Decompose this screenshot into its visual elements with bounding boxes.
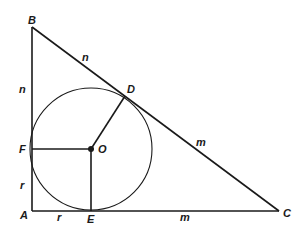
segment-label-BD: n [82, 51, 89, 63]
diagram-canvas: B D F O A E C n n r r m m [0, 0, 305, 234]
segment-label-DC: m [196, 136, 206, 148]
radius-OD [91, 96, 125, 149]
segment-label-EC: m [180, 211, 190, 223]
label-E: E [87, 213, 95, 225]
side-BC [32, 27, 279, 211]
label-O: O [98, 143, 107, 155]
center-point-O [88, 146, 94, 152]
label-A: A [19, 209, 28, 221]
segment-label-BF: n [19, 83, 26, 95]
segment-label-FA: r [20, 179, 25, 191]
label-D: D [127, 83, 135, 95]
label-C: C [283, 207, 292, 219]
label-B: B [28, 14, 36, 26]
label-F: F [19, 143, 26, 155]
segment-label-AE: r [57, 211, 62, 223]
